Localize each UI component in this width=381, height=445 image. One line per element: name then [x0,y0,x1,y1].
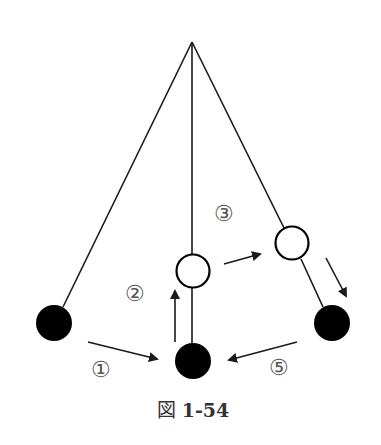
pendulum-diagram [0,0,381,445]
ball-center-open [177,255,210,288]
arrow-step-3 [224,254,260,264]
label-step-3: ③ [214,203,234,225]
ball-right-open [276,227,309,260]
arrow-step-4-down [326,258,346,296]
string-right-lower [301,259,323,307]
ball-right-black [314,305,350,341]
caption-prefix: 図 [157,399,176,421]
ball-bottom-black [175,343,211,379]
string-right-upper [192,42,284,228]
string-left [63,42,192,307]
caption-number: 1-54 [182,399,230,421]
label-step-5: ⑤ [269,357,289,379]
label-step-1: ① [91,359,111,381]
ball-left-black [36,305,72,341]
pendulum-figure: ① ② ③ ⑤ 図1-54 [0,0,381,445]
label-step-2: ② [125,283,145,305]
figure-caption: 図1-54 [157,395,230,422]
